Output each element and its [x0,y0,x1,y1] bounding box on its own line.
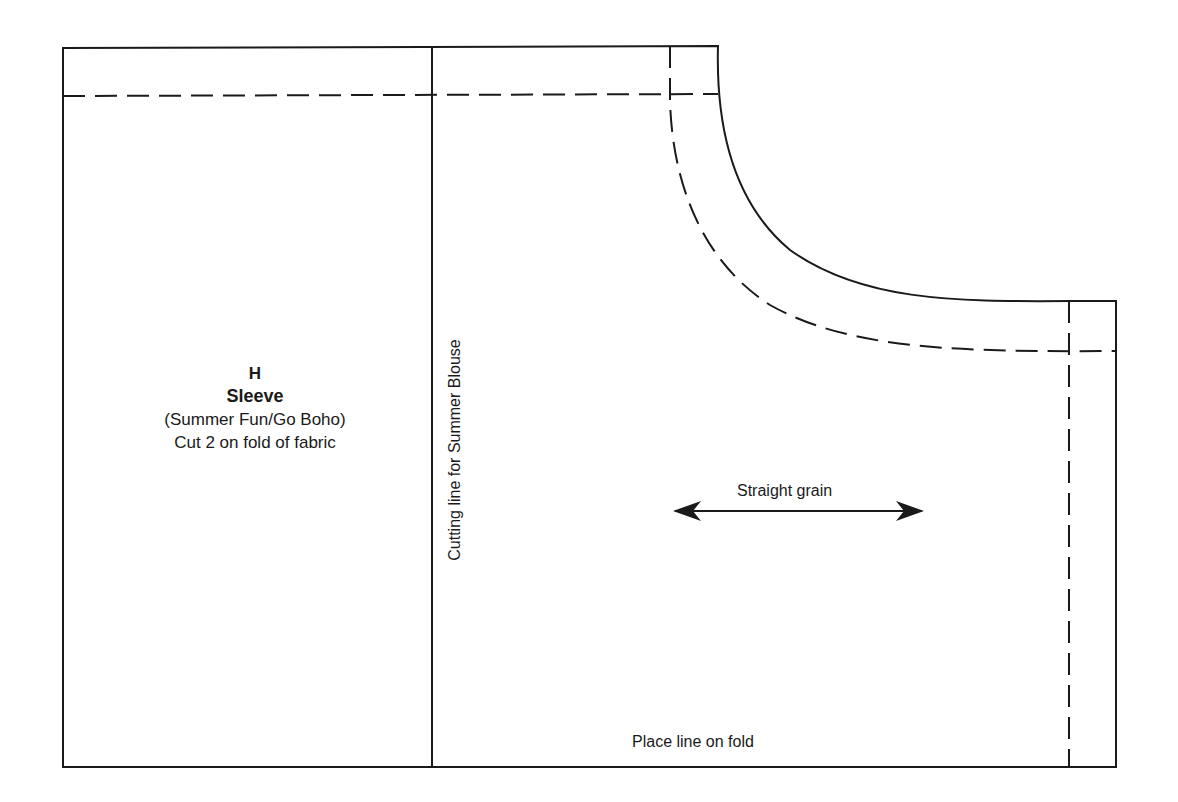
cutting-line-label: Cutting line for Summer Blouse [446,339,464,560]
top-seam-line [63,94,718,96]
piece-letter: H [130,362,380,385]
cut-instruction: Cut 2 on fold of fabric [130,431,380,454]
piece-label: H Sleeve (Summer Fun/Go Boho) Cut 2 on f… [130,362,380,454]
grain-label: Straight grain [737,482,832,500]
piece-name: Sleeve [130,385,380,408]
piece-collections: (Summer Fun/Go Boho) [130,408,380,431]
armhole-seam-line [670,46,1116,351]
fold-label: Place line on fold [632,733,754,751]
